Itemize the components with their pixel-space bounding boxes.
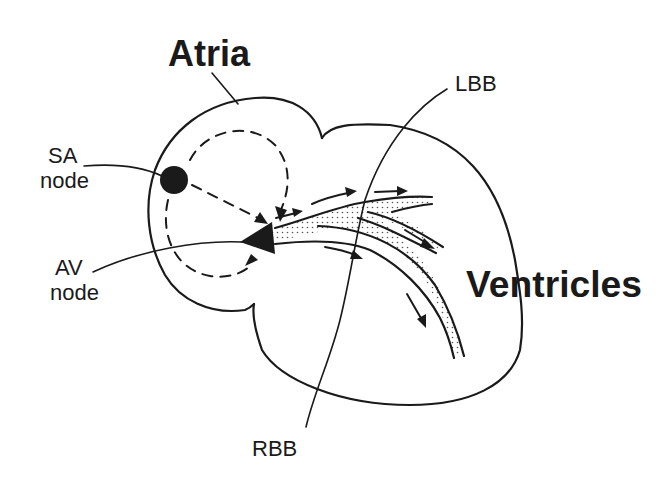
flow-arrow-6: [407, 294, 422, 320]
sa-node-label-line1: SA: [48, 143, 78, 168]
flow-arrowhead-5: [350, 250, 363, 259]
av-node-label-line2: node: [50, 280, 99, 305]
flow-arrow-2: [312, 193, 348, 204]
sa-node-leader: [84, 165, 162, 176]
internodal-path-bottom: [166, 200, 252, 277]
arrowhead-bottom: [245, 254, 258, 266]
lbb-leader: [306, 89, 447, 427]
atria-outline: [148, 98, 322, 311]
av-node-leader: [93, 242, 242, 272]
flow-arrow-5: [325, 247, 355, 255]
conduction-diagram: Atria Ventricles SA node AV node LBB RBB: [0, 0, 670, 477]
flow-arrowhead-2: [345, 187, 357, 197]
atria-label: Atria: [168, 33, 251, 74]
ventricles-label: Ventricles: [466, 264, 642, 305]
rbb-label: RBB: [252, 436, 297, 461]
rbb-inner-edge: [275, 242, 454, 358]
sa-node-icon: [160, 166, 188, 194]
internodal-path-top: [190, 131, 288, 212]
flow-arrow-3: [375, 191, 400, 192]
internodal-path-direct: [192, 185, 262, 220]
av-node-label-line1: AV: [55, 255, 83, 280]
sa-node-label-line2: node: [40, 168, 89, 193]
flow-arrowhead-1: [292, 208, 303, 217]
atria-leader: [212, 73, 238, 104]
av-node-icon: [240, 222, 275, 254]
flow-arrowhead-3: [397, 186, 408, 196]
lbb-label: LBB: [455, 71, 497, 96]
arrowhead-top: [275, 206, 287, 222]
flow-arrowhead-6: [417, 314, 426, 328]
